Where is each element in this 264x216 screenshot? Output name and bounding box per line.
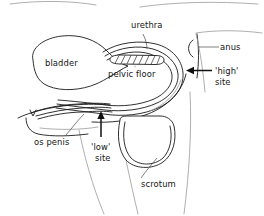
tail-base-line (196, 34, 205, 92)
leader-os-penis (66, 114, 84, 135)
label-os-penis: os penis (34, 137, 69, 147)
diagram-canvas: urethra bladder pelvic floor anus 'high'… (0, 0, 264, 216)
anatomical-diagram: urethra bladder pelvic floor anus 'high'… (0, 0, 264, 216)
label-high-site-line1: 'high' (215, 66, 238, 76)
label-high-site-line2: site (215, 77, 231, 87)
penis-ventral-outline (26, 118, 88, 136)
body-outline-top-right (140, 2, 258, 7)
pelvic-floor-group (110, 55, 164, 65)
anus-group (189, 34, 206, 92)
label-low-site-line2: site (95, 153, 111, 163)
os-penis-group (18, 103, 112, 136)
label-urethra: urethra (131, 20, 163, 30)
low-site-arrow (97, 111, 104, 137)
anal-sphincter-arc (189, 40, 194, 57)
label-low-site-line1: 'low' (91, 142, 110, 152)
body-outline-back (196, 31, 262, 33)
hind-leg-line-right (184, 92, 191, 214)
scrotum-outline (118, 116, 175, 167)
body-outline-top-left (10, 1, 96, 5)
label-bladder: bladder (45, 58, 78, 68)
leader-urethra (143, 34, 147, 49)
label-pelvic-floor: pelvic floor (108, 69, 156, 79)
pelvic-floor-outline (110, 55, 164, 65)
high-site-arrow (186, 67, 212, 74)
preputial-line (40, 127, 98, 129)
scrotum-group (118, 116, 175, 167)
label-scrotum: scrotum (141, 179, 176, 189)
label-anus: anus (220, 42, 241, 52)
